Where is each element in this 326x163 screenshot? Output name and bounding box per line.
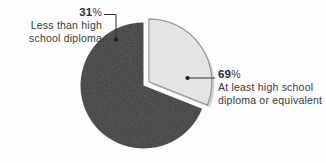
pie-label-left-line2: school diploma: [0, 32, 102, 44]
pie-label-right-line2: diploma or equivalent: [218, 94, 326, 106]
pie-label-left-value: 31: [79, 6, 92, 18]
pie-label-right-line1: At least high school: [218, 81, 326, 93]
pie-label-left-line1: Less than high: [0, 19, 102, 31]
pie-label-at-least-high-school: 69% At least high school diploma or equi…: [218, 68, 326, 106]
pie-label-right-percent: 69%: [218, 68, 326, 80]
pie-label-left-percent-sign: %: [92, 6, 102, 18]
pie-chart-figure: 31% Less than high school diploma 69% At…: [0, 0, 326, 163]
pie-label-right-percent-sign: %: [231, 68, 241, 80]
pie-label-right-value: 69: [218, 68, 231, 80]
pie-label-left-percent: 31%: [0, 6, 102, 18]
pie-label-less-than-high-school: 31% Less than high school diploma: [0, 6, 102, 44]
